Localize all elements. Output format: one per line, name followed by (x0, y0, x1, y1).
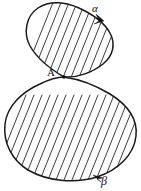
alpha-label: α (92, 3, 98, 14)
beta-label: β (101, 175, 107, 187)
figure-canvas: α β A (0, 0, 141, 191)
intersection-point-marker (62, 75, 66, 79)
lower-loop-hatching (0, 95, 141, 191)
intersection-point-label: A (47, 67, 55, 78)
upper-loop-hatching (18, 0, 141, 90)
figure-eight-curve-diagram (0, 0, 141, 191)
